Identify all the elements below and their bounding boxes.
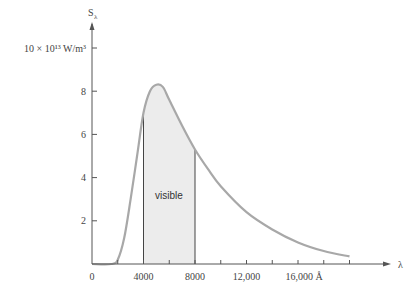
axes [90, 22, 392, 267]
y-axis-arrow-icon [90, 22, 95, 30]
x-tick-label: 0 [90, 271, 95, 282]
visible-region-label: visible [155, 190, 183, 201]
y-tick-label: 10 × 10¹³ W/m³ [24, 43, 86, 54]
x-axis-arrow-icon [383, 262, 391, 267]
x-tick-label: 16,000 Å [285, 271, 323, 282]
y-tick-label: 8 [81, 86, 86, 97]
visible-region-shade [144, 84, 196, 264]
y-axis-subscript: λ [94, 13, 98, 21]
shade-area [144, 84, 196, 264]
y-axis-title: S [88, 7, 94, 18]
spectrum-curve [92, 84, 350, 264]
y-tick-label: 6 [81, 129, 86, 140]
y-tick-label: 4 [81, 172, 86, 183]
x-tick-label: 4000 [134, 271, 154, 282]
spectrum-chart: 04000800012,00016,000 Å246810 × 10¹³ W/m… [0, 0, 415, 296]
spectrum-line [92, 84, 350, 264]
x-tick-label: 12,000 [233, 271, 261, 282]
x-tick-label: 8000 [185, 271, 205, 282]
y-tick-label: 2 [81, 215, 86, 226]
axis-labels: 04000800012,00016,000 Å246810 × 10¹³ W/m… [24, 7, 403, 282]
x-axis-title: λ [398, 259, 403, 270]
